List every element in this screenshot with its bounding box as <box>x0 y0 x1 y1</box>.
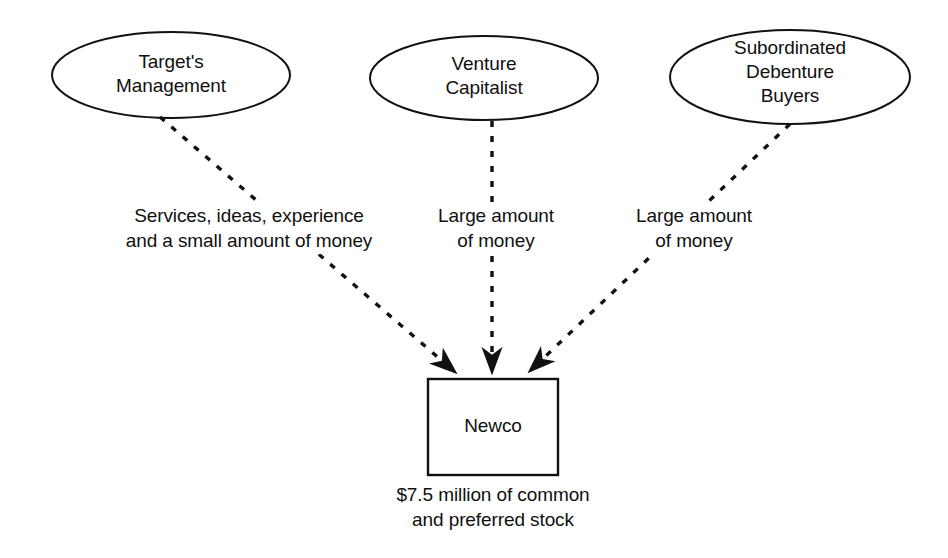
edge-label-vc-to-newco: Large amount of money <box>418 202 574 254</box>
node-shape-subordinated-debenture-buyers <box>670 30 910 124</box>
edge-label-management-to-newco: Services, ideas, experience and a small … <box>116 202 382 254</box>
diagram-caption: $7.5 million of common and preferred sto… <box>348 482 638 532</box>
edge-label-sub-to-newco: Large amount of money <box>616 202 772 254</box>
node-shape-venture-capitalist <box>370 36 598 120</box>
diagram-vector-layer <box>0 0 948 558</box>
node-shape-targets-management <box>52 32 290 118</box>
node-shape-newco <box>428 379 558 475</box>
diagram-canvas: Target's Management Venture Capitalist S… <box>0 0 948 558</box>
